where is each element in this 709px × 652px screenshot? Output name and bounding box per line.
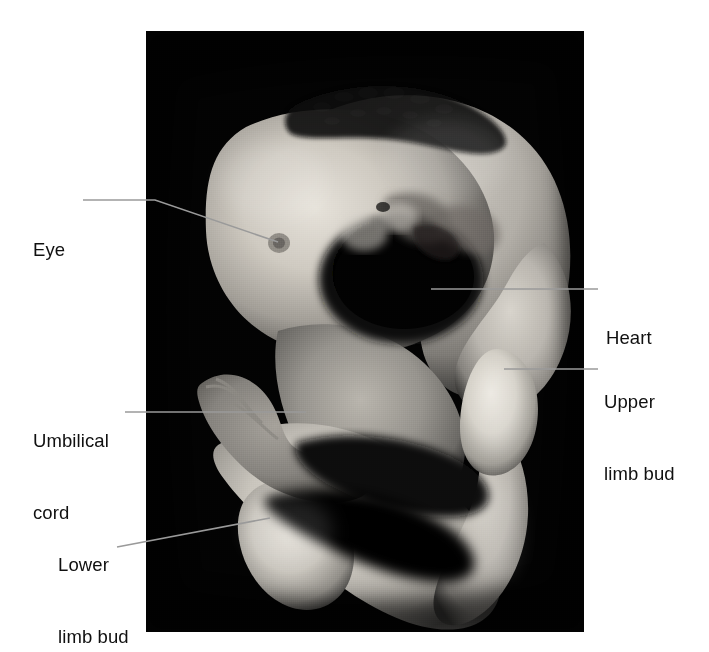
label-upper-limb-bud-line-1: Upper bbox=[604, 390, 675, 414]
embryo-photograph bbox=[146, 31, 584, 632]
label-lower-limb-bud-line-1: Lower bbox=[58, 553, 129, 577]
nasal-pit bbox=[376, 202, 390, 212]
label-eye: Eye bbox=[33, 190, 65, 310]
label-upper-limb-bud-line-2: limb bud bbox=[604, 462, 675, 486]
label-lower-limb-bud: Lower limb bud bbox=[58, 505, 129, 652]
figure-root: Eye Heart Upper limb bud Umbilical cord … bbox=[0, 0, 709, 652]
embryo-photograph-plate bbox=[146, 31, 584, 632]
eye-pigment-ring bbox=[273, 238, 285, 249]
label-upper-limb-bud: Upper limb bud bbox=[604, 342, 675, 534]
label-umbilical-cord-line-1: Umbilical bbox=[33, 429, 109, 453]
label-eye-line-1: Eye bbox=[33, 238, 65, 262]
label-lower-limb-bud-line-2: limb bud bbox=[58, 625, 129, 649]
